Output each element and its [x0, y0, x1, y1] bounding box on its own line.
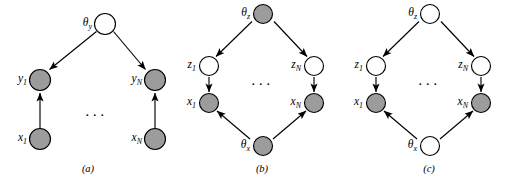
label-theta_z: θz: [241, 7, 250, 20]
label-z_N: zN: [458, 59, 468, 72]
label-x_1: x1: [187, 96, 196, 109]
node-theta_z[interactable]: [421, 5, 440, 24]
node-x_N[interactable]: [472, 94, 491, 113]
node-theta_z[interactable]: [254, 5, 273, 24]
figure-root: θy y1 yN x1 xN ··· (a): [0, 0, 513, 183]
node-z_N[interactable]: [305, 57, 324, 76]
node-theta_y[interactable]: [95, 14, 116, 35]
label-z_1: z1: [355, 59, 363, 72]
node-y_1[interactable]: [30, 70, 51, 91]
node-theta_x[interactable]: [254, 137, 273, 156]
edge-theta_z-to-z_N: [441, 22, 474, 57]
edge-theta_x-to-x_N: [440, 111, 473, 139]
node-x_1[interactable]: [30, 129, 51, 150]
label-x_N: xN: [132, 132, 142, 145]
node-y_N[interactable]: [145, 70, 166, 91]
edge-theta_x-to-x_1: [217, 111, 250, 139]
panel-a: θy y1 yN x1 xN ··· (a): [0, 0, 176, 183]
label-y_N: yN: [132, 73, 142, 86]
label-x_1: x1: [354, 96, 363, 109]
panel-b: θz z1 zN x1 xN θx ··· (b): [176, 0, 342, 183]
label-z_1: z1: [188, 59, 196, 72]
label-x_N: xN: [458, 96, 468, 109]
edge-theta_z-to-z_N: [274, 22, 307, 57]
label-theta_y: θy: [83, 17, 92, 30]
panel-b-caption: (b): [256, 163, 268, 174]
edge-theta_z-to-z_1: [383, 22, 419, 57]
label-x_1: x1: [18, 132, 27, 145]
panel-a-ellipsis: ···: [85, 107, 108, 124]
panel-c-ellipsis: ···: [418, 76, 441, 93]
node-theta_x[interactable]: [421, 137, 440, 156]
edge-theta_y-to-y_1: [50, 32, 97, 70]
label-theta_x: θx: [241, 139, 250, 152]
node-x_1[interactable]: [367, 94, 386, 113]
label-theta_x: θx: [408, 139, 417, 152]
node-x_N[interactable]: [145, 129, 166, 150]
node-x_1[interactable]: [200, 94, 219, 113]
edge-theta_x-to-x_N: [273, 111, 306, 139]
edge-theta_z-to-z_1: [216, 22, 252, 57]
edge-theta_x-to-x_1: [384, 111, 417, 139]
label-x_N: xN: [291, 96, 301, 109]
label-z_N: zN: [291, 59, 301, 72]
node-z_N[interactable]: [472, 57, 491, 76]
panel-c-caption: (c): [423, 163, 435, 174]
panel-a-caption: (a): [82, 163, 94, 174]
label-theta_z: θz: [408, 7, 417, 20]
label-y_1: y1: [18, 73, 27, 86]
node-x_N[interactable]: [305, 94, 324, 113]
node-z_1[interactable]: [200, 57, 219, 76]
panel-c: θz z1 zN x1 xN θx ··· (c): [342, 0, 513, 183]
edge-theta_y-to-y_N: [114, 32, 146, 70]
node-z_1[interactable]: [367, 57, 386, 76]
panel-b-ellipsis: ···: [251, 76, 274, 93]
